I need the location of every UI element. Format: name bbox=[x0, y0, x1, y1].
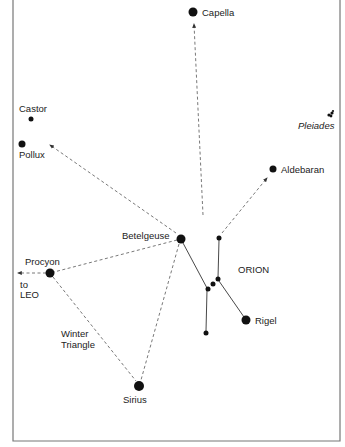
label-aldebaran: Aldebaran bbox=[281, 164, 324, 175]
line-to-capella bbox=[194, 24, 203, 215]
star-betelgeuse bbox=[177, 235, 186, 244]
star-sirius bbox=[134, 381, 144, 391]
label-winter-triangle-line1: Winter bbox=[61, 328, 88, 339]
star-mintaka bbox=[206, 287, 211, 292]
label-procyon: Procyon bbox=[25, 256, 60, 267]
label-pollux: Pollux bbox=[19, 149, 45, 160]
star-saiph bbox=[204, 331, 209, 336]
label-winter-triangle-line2: Triangle bbox=[61, 339, 95, 350]
label-to-leo-line2: LEO bbox=[20, 289, 39, 300]
line-to-pollux bbox=[50, 145, 176, 233]
label-pleiades: Pleiades bbox=[298, 120, 335, 131]
orion-line-bellatrix-belt bbox=[218, 240, 219, 278]
label-orion: ORION bbox=[238, 264, 269, 275]
triangle-betelgeuse-procyon bbox=[54, 240, 177, 272]
label-rigel: Rigel bbox=[255, 315, 277, 326]
star-aldebaran bbox=[270, 166, 277, 173]
label-castor: Castor bbox=[19, 103, 47, 114]
star-capella bbox=[189, 8, 198, 17]
star-castor bbox=[29, 117, 34, 122]
star-pollux bbox=[19, 141, 26, 148]
star-chart: Capella Castor Pollux Pleiades Aldebaran… bbox=[0, 0, 345, 447]
orion-line-betelgeuse-belt bbox=[183, 243, 207, 288]
label-sirius: Sirius bbox=[123, 394, 147, 405]
orion-line-belt-saiph bbox=[206, 290, 207, 331]
orion-line-belt-rigel bbox=[219, 281, 244, 317]
label-betelgeuse: Betelgeuse bbox=[122, 230, 170, 241]
pleiades-cluster-icon bbox=[327, 110, 334, 118]
triangle-betelgeuse-sirius bbox=[141, 244, 179, 380]
star-alnitak bbox=[216, 277, 221, 282]
label-capella: Capella bbox=[202, 7, 235, 18]
star-rigel bbox=[242, 316, 251, 325]
chart-frame bbox=[13, 0, 340, 441]
line-to-aldebaran bbox=[222, 178, 267, 233]
star-alnilam bbox=[211, 282, 216, 287]
star-bellatrix bbox=[217, 236, 222, 241]
star-procyon bbox=[46, 269, 55, 278]
